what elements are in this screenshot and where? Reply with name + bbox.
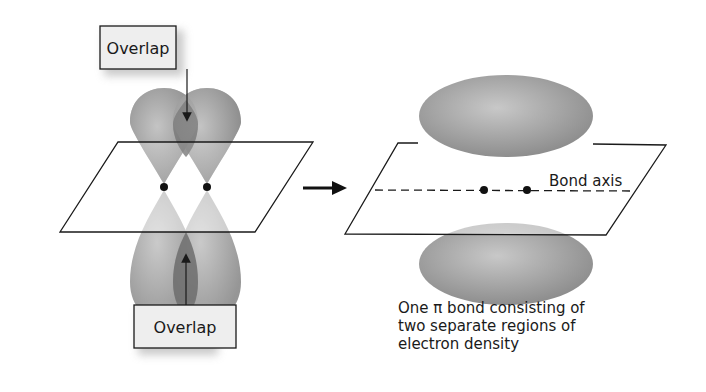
right-pi-bond: Bond axis [345, 75, 666, 305]
left-nucleus-1 [160, 183, 168, 191]
transition-arrow [303, 181, 347, 195]
left-nucleus-2 [203, 183, 211, 191]
caption-line-1: One π bond consisting of [398, 299, 585, 317]
overlap-label-top-text: Overlap [107, 39, 170, 58]
bond-axis-label: Bond axis [549, 172, 623, 190]
caption-line-3: electron density [398, 335, 519, 353]
right-nucleus-1 [480, 186, 488, 194]
caption-line-2: two separate regions of [398, 317, 576, 335]
caption: One π bond consisting of two separate re… [398, 299, 585, 353]
overlap-label-bottom: Overlap [134, 305, 236, 355]
overlap-label-top: Overlap [100, 26, 184, 76]
right-nucleus-2 [523, 186, 531, 194]
pi-bond-upper-lobe [419, 75, 593, 157]
overlap-label-bottom-text: Overlap [154, 318, 217, 337]
pi-bond-diagram: Overlap Overlap Bond axis One π bond con… [0, 0, 706, 392]
